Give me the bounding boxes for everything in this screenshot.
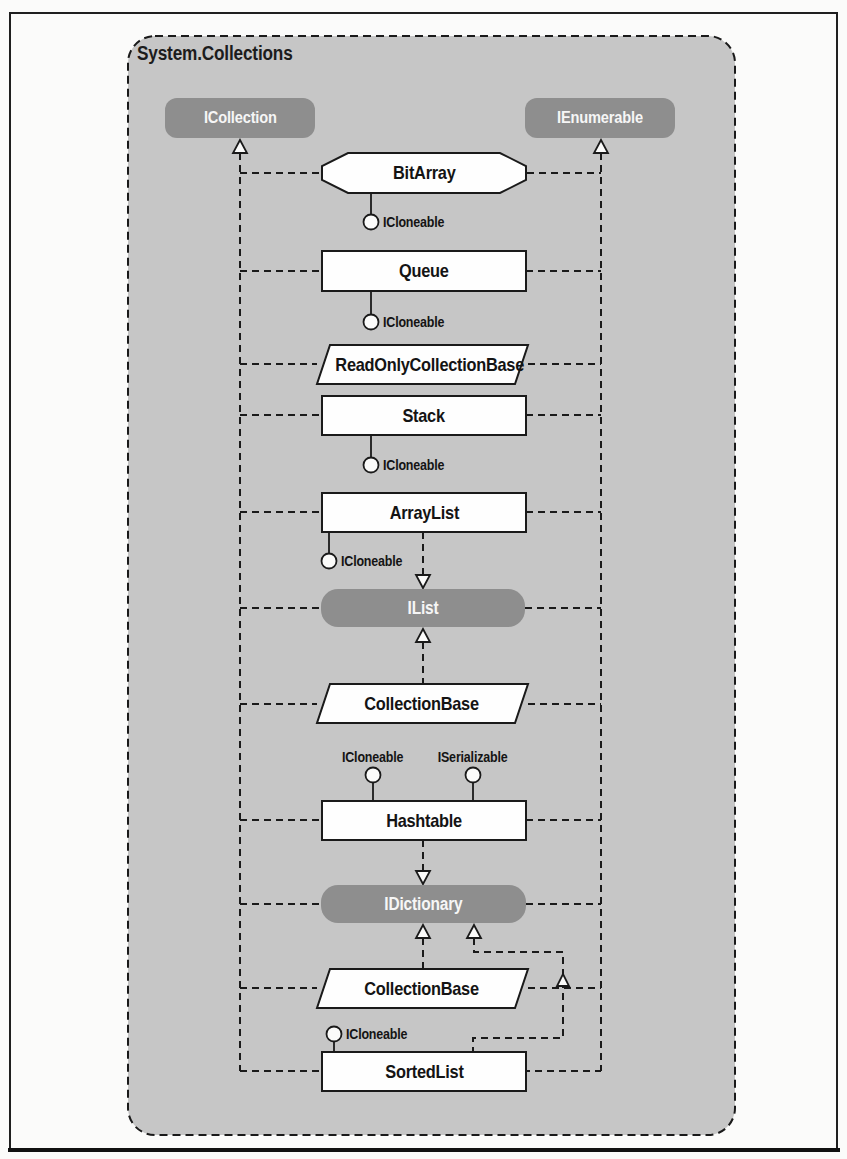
interface-idictionary: IDictionary: [321, 885, 526, 923]
class-collectionbase-lower: CollectionBase: [320, 969, 524, 1008]
class-stack: Stack: [322, 396, 526, 435]
namespace-title: System.Collections: [137, 42, 318, 65]
class-queue: Queue: [322, 251, 526, 291]
interface-ienumerable: IEnumerable: [525, 98, 675, 138]
lollipop-label-bitarray-icloneable: ICloneable: [383, 214, 454, 230]
interface-ilist: IList: [321, 589, 525, 627]
class-collectionbase-upper: CollectionBase: [320, 684, 524, 723]
class-bitarray: BitArray: [322, 153, 526, 193]
book-page: System.Collections ICollection IEnumerab…: [0, 0, 847, 1159]
class-hashtable: Hashtable: [322, 801, 526, 840]
class-readonlycollectionbase: ReadOnlyCollectionBase: [320, 345, 524, 384]
class-arraylist: ArrayList: [322, 493, 526, 532]
lollipop-label-hashtable-iserializable: ISerializable: [413, 749, 533, 765]
namespace-title-text: System.Collections: [137, 42, 293, 65]
lollipop-label-queue-icloneable: ICloneable: [383, 314, 454, 330]
lollipop-label-sortedlist-icloneable: ICloneable: [346, 1026, 417, 1042]
lollipop-label-arraylist-icloneable: ICloneable: [341, 553, 412, 569]
lollipop-label-stack-icloneable: ICloneable: [383, 457, 454, 473]
class-sortedlist: SortedList: [322, 1052, 526, 1091]
interface-icollection: ICollection: [165, 98, 315, 138]
